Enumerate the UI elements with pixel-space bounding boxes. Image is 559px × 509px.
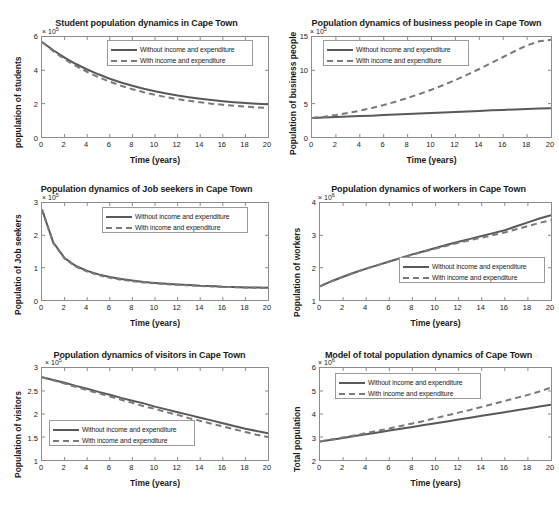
x-tick-label: 18 xyxy=(240,303,248,312)
x-tick-label: 12 xyxy=(453,303,461,312)
solid-line-icon xyxy=(53,425,79,434)
x-tick-label: 6 xyxy=(386,463,390,472)
legend: Without income and expenditure With inco… xyxy=(107,40,253,66)
plot-area: Without income and expenditure With inco… xyxy=(41,36,269,138)
x-tick-label: 20 xyxy=(263,140,271,149)
series-line-without xyxy=(312,108,551,118)
x-tick-label: 4 xyxy=(84,463,88,472)
y-tick-label: 1 xyxy=(24,264,38,273)
x-axis-label: Time (years) xyxy=(41,318,269,328)
plot-area: Without income and expenditure With inco… xyxy=(319,202,552,301)
x-tick-label: 20 xyxy=(546,140,554,149)
x-tick-label: 0 xyxy=(39,140,43,149)
legend-label: Without income and expenditure xyxy=(356,46,450,53)
y-tick-label: 4 xyxy=(302,198,316,207)
y-tick-label: 2 xyxy=(24,231,38,240)
x-tick-label: 2 xyxy=(62,303,66,312)
x-tick-label: 12 xyxy=(172,463,180,472)
y-tick-label: 3 xyxy=(302,231,316,240)
y-exponent-label: × 105 xyxy=(45,357,62,366)
y-exponent-label: × 106 xyxy=(318,357,335,366)
y-exponent-label: × 105 xyxy=(42,192,59,201)
y-tick-label: 15 xyxy=(292,32,308,41)
legend-label: Without income and expenditure xyxy=(135,213,229,220)
x-tick-label: 20 xyxy=(263,303,271,312)
x-tick-label: 8 xyxy=(129,140,133,149)
y-tick-label: 1 xyxy=(302,297,316,306)
x-tick-label: 20 xyxy=(263,463,271,472)
y-tick-label: 3 xyxy=(302,433,316,442)
x-tick-label: 2 xyxy=(340,463,344,472)
x-axis-label: Time (years) xyxy=(41,478,269,488)
figure-canvas: Student population dynamics in Cape Town… xyxy=(0,0,559,509)
dashed-line-icon xyxy=(339,389,365,398)
y-tick-label: 2 xyxy=(21,410,38,419)
x-tick-label: 0 xyxy=(39,463,43,472)
dashed-line-icon xyxy=(327,56,353,65)
tick-marks xyxy=(320,203,551,300)
chart-svg xyxy=(42,368,268,460)
x-tick-label: 14 xyxy=(477,303,485,312)
plot-area: Without income and expenditure With inco… xyxy=(41,367,269,461)
dashed-line-icon xyxy=(111,56,137,65)
x-tick-label: 0 xyxy=(317,463,321,472)
x-tick-label: 18 xyxy=(240,463,248,472)
legend-item-with: With income and expenditure xyxy=(111,55,248,66)
legend-label: With income and expenditure xyxy=(368,390,453,397)
x-tick-label: 16 xyxy=(500,463,508,472)
x-tick-label: 12 xyxy=(453,463,461,472)
x-tick-label: 10 xyxy=(150,140,158,149)
legend: Without income and expenditure With inco… xyxy=(335,373,481,399)
y-axis-label: Total population xyxy=(292,407,302,472)
x-tick-label: 8 xyxy=(405,140,409,149)
chart-svg xyxy=(320,203,551,300)
y-exponent-label: × 105 xyxy=(42,26,59,35)
legend-item-without: Without income and expenditure xyxy=(339,377,476,388)
x-axis-label: Time (years) xyxy=(41,155,269,165)
x-axis-label: Time (years) xyxy=(319,318,552,328)
legend-label: With income and expenditure xyxy=(82,437,167,444)
y-exponent-label: × 105 xyxy=(310,26,327,35)
y-tick-label: 6 xyxy=(302,363,316,372)
subplot-business: Population dynamics of business people i… xyxy=(280,0,559,172)
x-tick-label: 16 xyxy=(218,463,226,472)
y-tick-label: 2 xyxy=(24,100,38,109)
legend: Without income and expenditure With inco… xyxy=(49,420,195,446)
dashed-line-icon xyxy=(53,436,79,445)
plot-area: Without income and expenditure With inco… xyxy=(41,202,269,301)
x-tick-label: 6 xyxy=(107,463,111,472)
x-tick-label: 18 xyxy=(523,463,531,472)
x-tick-label: 14 xyxy=(477,463,485,472)
x-tick-label: 8 xyxy=(409,463,413,472)
x-tick-label: 16 xyxy=(218,140,226,149)
x-tick-label: 4 xyxy=(84,140,88,149)
x-tick-label: 8 xyxy=(129,303,133,312)
y-axis-label: Population of workers xyxy=(292,228,302,317)
x-tick-label: 14 xyxy=(474,140,482,149)
x-tick-label: 12 xyxy=(172,140,180,149)
x-tick-label: 18 xyxy=(240,140,248,149)
x-tick-label: 8 xyxy=(129,463,133,472)
y-tick-label: 3 xyxy=(24,198,38,207)
x-tick-label: 4 xyxy=(363,303,367,312)
x-tick-label: 10 xyxy=(150,303,158,312)
legend-item-with: With income and expenditure xyxy=(403,272,540,283)
x-tick-label: 20 xyxy=(546,303,554,312)
legend-item-with: With income and expenditure xyxy=(53,435,190,446)
solid-line-icon xyxy=(327,45,353,54)
plot-title: Population dynamics of business people i… xyxy=(294,18,559,28)
x-tick-label: 14 xyxy=(195,463,203,472)
plot-area: Without income and expenditure With inco… xyxy=(311,36,552,138)
solid-line-icon xyxy=(106,212,132,221)
legend-item-with: With income and expenditure xyxy=(327,55,464,66)
legend-item-without: Without income and expenditure xyxy=(403,261,540,272)
legend-label: Without income and expenditure xyxy=(140,46,234,53)
x-tick-label: 8 xyxy=(409,303,413,312)
y-tick-label: 0 xyxy=(24,134,38,143)
y-tick-label: 0 xyxy=(24,297,38,306)
x-tick-label: 4 xyxy=(363,463,367,472)
legend: Without income and expenditure With inco… xyxy=(323,40,469,66)
solid-line-icon xyxy=(403,262,429,271)
x-tick-label: 10 xyxy=(430,303,438,312)
legend-label: With income and expenditure xyxy=(135,224,220,231)
